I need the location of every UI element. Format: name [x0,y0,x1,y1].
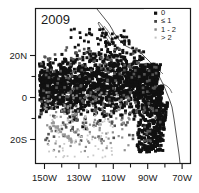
data-point [143,126,146,129]
data-point [100,135,102,137]
data-point [96,84,99,87]
data-point [51,93,54,96]
y-tick-label-20s: 20S [10,134,27,145]
data-point [134,101,137,104]
data-point [118,86,121,89]
data-point [123,29,126,32]
data-point [142,50,145,53]
data-point [111,38,114,41]
data-point [131,110,134,113]
data-point [152,110,155,113]
data-point [40,112,43,115]
data-point [128,72,131,75]
data-point [87,156,89,158]
data-point [123,69,126,72]
data-point [103,36,106,39]
data-point [95,112,97,114]
x-tick-label-150w: 150W [32,172,57,183]
data-point [78,50,81,53]
legend-marker-1to2 [154,28,156,30]
data-point [74,75,77,78]
data-point [68,77,71,80]
data-point [111,55,114,58]
data-point [133,115,136,118]
data-point [149,130,152,133]
data-point [85,81,88,84]
data-point [87,94,89,96]
data-point [55,156,57,158]
data-point [148,150,151,153]
data-point [73,28,76,31]
data-point [49,114,51,116]
data-point [53,122,55,124]
data-point [129,83,132,86]
data-point [102,105,104,107]
chart-title: 2009 [41,12,70,27]
data-point [102,121,104,123]
data-point [85,33,88,36]
data-point [121,128,123,130]
data-point [120,40,123,43]
data-point [43,97,46,100]
data-point [141,79,144,82]
data-point [135,105,138,108]
data-point [72,92,75,95]
data-point [95,91,97,93]
data-point [83,40,86,43]
data-point [138,84,141,87]
data-point [162,108,165,111]
data-point [79,97,82,100]
data-point [104,69,107,72]
data-point [158,68,161,71]
data-point [115,58,118,61]
data-point [74,81,77,84]
data-point [74,142,76,144]
data-point [152,104,155,107]
data-point [126,84,129,87]
data-point [69,64,72,67]
data-point [81,58,84,61]
data-point [64,135,66,137]
data-point [54,58,57,61]
data-point [40,63,43,66]
data-point [89,133,91,135]
data-point [85,146,87,148]
data-point [49,57,52,60]
data-point [161,149,164,152]
data-point [89,131,91,133]
data-point [46,85,49,88]
data-point [71,130,73,132]
data-point [112,137,115,140]
data-point [125,76,128,79]
data-point [156,97,159,100]
data-point [75,97,78,100]
data-point [110,142,112,144]
data-point [76,54,79,57]
x-tick-label-90w: 90W [138,172,158,183]
legend-marker-le1 [154,20,157,23]
data-point [122,122,124,124]
data-point [89,94,91,96]
data-point [83,119,85,121]
data-point [56,130,58,132]
data-point [141,130,144,133]
data-point [132,134,135,137]
data-point [154,93,157,96]
data-point [125,124,128,127]
data-point [160,92,163,95]
data-point [155,100,158,103]
data-point [103,140,105,142]
data-point [86,72,89,75]
data-point [119,105,121,107]
data-point [71,75,74,78]
data-point [65,49,68,52]
data-point [86,125,88,127]
data-point [98,148,100,150]
data-point [107,41,110,44]
data-point [123,64,126,67]
data-point [85,52,88,55]
data-point [94,119,96,121]
data-point [80,93,83,96]
data-point [40,96,43,99]
data-point [94,137,96,139]
